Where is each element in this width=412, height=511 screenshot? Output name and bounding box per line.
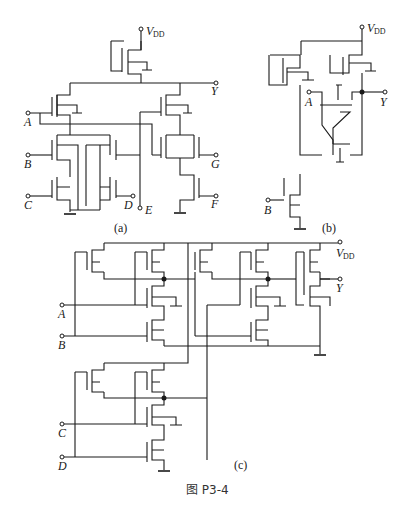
svg-text:F: F — [210, 197, 219, 211]
svg-text:D: D — [57, 459, 67, 473]
svg-text:DD: DD — [343, 252, 355, 261]
svg-text:Y: Y — [380, 95, 388, 109]
svg-text:A: A — [57, 307, 66, 321]
svg-text:DD: DD — [374, 27, 386, 36]
svg-text:DD: DD — [153, 30, 165, 39]
svg-text:(a): (a) — [114, 221, 127, 235]
circuit-diagram: V DD Y A B C D E — [0, 0, 412, 511]
svg-text:B: B — [58, 338, 66, 352]
svg-text:(b): (b) — [322, 221, 336, 235]
svg-text:D: D — [123, 198, 133, 212]
svg-text:(c): (c) — [234, 458, 247, 472]
svg-text:B: B — [24, 157, 32, 171]
panel-a: V DD Y A B C D E — [23, 24, 220, 235]
svg-text:Y: Y — [336, 281, 344, 295]
output-label-y-a: Y — [211, 84, 219, 98]
svg-text:A: A — [23, 115, 32, 129]
figure-caption: 图 P3-4 — [186, 483, 229, 497]
svg-text:C: C — [58, 426, 67, 440]
svg-text:G: G — [211, 157, 220, 171]
panel-b: V DD Y A B (b) — [264, 21, 388, 235]
svg-text:C: C — [24, 198, 33, 212]
svg-text:A: A — [304, 95, 313, 109]
vdd-terminal-a — [139, 27, 143, 31]
panel-c: V DD A B Y — [57, 240, 355, 473]
svg-text:E: E — [144, 203, 153, 217]
svg-text:B: B — [264, 203, 272, 217]
